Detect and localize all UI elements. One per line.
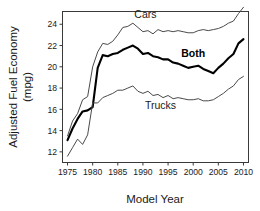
y-tick-label: 22 — [47, 41, 57, 51]
x-tick-label: 2005 — [209, 167, 228, 177]
x-axis-title: Model Year — [126, 193, 184, 205]
y-axis-title-line2: (mpg) — [21, 72, 33, 102]
fuel-economy-chart: 12141618202224 1975198019851990199520002… — [0, 0, 260, 211]
x-tick-label: 1975 — [58, 167, 77, 177]
x-tick-label: 2010 — [234, 167, 253, 177]
series-label-cars: Cars — [134, 8, 156, 20]
plot-area-frame — [63, 12, 249, 163]
y-tick-label: 20 — [47, 62, 57, 72]
x-tick-label: 1980 — [83, 167, 102, 177]
series-label-trucks: Trucks — [145, 99, 176, 111]
data-series-group — [68, 7, 244, 156]
y-tick-label: 12 — [47, 147, 57, 157]
series-line-cars — [68, 7, 244, 136]
x-tick-label: 1990 — [133, 167, 152, 177]
x-tick-label: 1995 — [159, 167, 178, 177]
chart-canvas: 12141618202224 1975198019851990199520002… — [0, 0, 260, 211]
series-label-both: Both — [181, 47, 205, 59]
y-tick-label: 14 — [47, 126, 57, 136]
y-tick-label: 16 — [47, 105, 57, 115]
x-tick-label: 2000 — [184, 167, 203, 177]
x-axis-ticks: 19751980198519901995200020052010 — [58, 163, 253, 178]
series-line-both — [68, 39, 244, 140]
y-tick-label: 24 — [47, 19, 57, 29]
x-tick-label: 1985 — [108, 167, 127, 177]
y-tick-label: 18 — [47, 83, 57, 93]
series-line-trucks — [68, 76, 244, 156]
y-axis-title-line1: Adjusted Fuel Economy — [7, 26, 19, 148]
y-axis-ticks: 12141618202224 — [47, 19, 62, 157]
